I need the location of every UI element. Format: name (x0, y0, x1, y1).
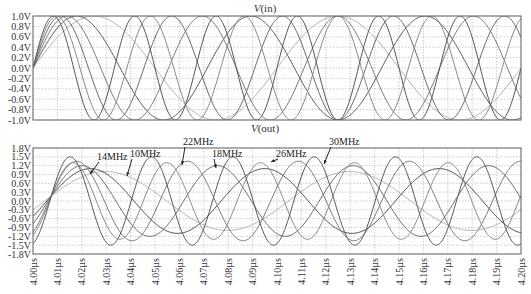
x-tick-label: 4.15µs (394, 258, 405, 285)
x-tick-label: 4.18µs (467, 258, 478, 285)
freq-annotation: 30MHz (329, 136, 360, 147)
y-tick-label: -0.8V (8, 104, 32, 115)
vout-title: V(out) (251, 122, 279, 135)
x-tick-label: 4.08µs (223, 258, 234, 285)
x-tick-label: 4.10µs (272, 258, 283, 285)
arrowhead-icon (127, 172, 130, 176)
y-tick-label: -0.4V (8, 83, 32, 94)
arrowhead-icon (324, 160, 327, 164)
x-tick-label: 4.12µs (320, 258, 331, 285)
y-tick-label: 1.0V (11, 11, 32, 22)
y-tick-label: 0.2V (11, 52, 32, 63)
y-tick-label: 0.6V (11, 31, 32, 42)
x-tick-label: 4.05µs (150, 258, 161, 285)
x-tick-label: 4.17µs (442, 258, 453, 285)
y-tick-label: -1.8V (8, 249, 32, 260)
freq-annotation: 18MHz (212, 148, 243, 159)
x-tick-label: 4.19µs (491, 258, 502, 285)
waveform-chart: 1.0V0.8V0.6V0.4V0.2V0.0V-0.2V-0.4V-0.6V-… (0, 0, 531, 294)
x-tick-label: 4.14µs (369, 258, 380, 285)
y-tick-label: -0.2V (8, 73, 32, 84)
x-tick-label: 4.02µs (76, 258, 87, 285)
x-tick-label: 4.06µs (174, 258, 185, 285)
y-tick-label: -1.0V (8, 115, 32, 126)
y-tick-label: 0.0V (11, 63, 32, 74)
vin-plot: 1.0V0.8V0.6V0.4V0.2V0.0V-0.2V-0.4V-0.6V-… (8, 11, 521, 126)
x-tick-label: 4.00µs (28, 258, 39, 285)
freq-annotation: 22MHz (183, 136, 214, 147)
freq-annotation: 14MHz (97, 151, 128, 162)
x-tick-label: 4.09µs (247, 258, 258, 285)
freq-annotation: 26MHz (276, 148, 307, 159)
vout-plot: 1.8V1.5V1.2V0.9V0.6V0.3V0.0V-0.3V-0.6V-0… (8, 136, 527, 285)
x-tick-label: 4.20µs (516, 258, 527, 285)
x-tick-label: 4.13µs (345, 258, 356, 285)
x-tick-label: 4.07µs (198, 258, 209, 285)
y-tick-label: 0.8V (11, 21, 32, 32)
x-tick-label: 4.01µs (52, 258, 63, 285)
x-tick-label: 4.11µs (296, 258, 307, 285)
x-tick-label: 4.16µs (418, 258, 429, 285)
vin-title: V(in) (254, 2, 277, 15)
freq-annotation: 10MHz (130, 148, 161, 159)
x-tick-label: 4.04µs (125, 258, 136, 285)
y-tick-label: 0.4V (11, 42, 32, 53)
x-tick-label: 4.03µs (101, 258, 112, 285)
y-tick-label: -0.6V (8, 94, 32, 105)
